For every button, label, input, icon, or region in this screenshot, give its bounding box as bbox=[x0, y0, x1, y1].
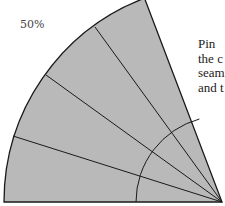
caption-line: Pin bbox=[198, 37, 225, 52]
instruction-caption: Pin the c seam and t bbox=[198, 37, 225, 95]
scale-label: 50% bbox=[20, 18, 44, 31]
caption-line: and t bbox=[198, 81, 225, 96]
caption-line: seam bbox=[198, 66, 225, 81]
caption-line: the c bbox=[198, 52, 225, 67]
